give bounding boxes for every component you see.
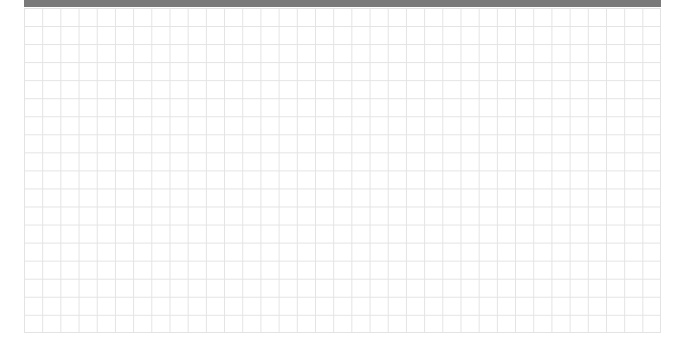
empty-grid-canvas <box>24 8 661 333</box>
header-bar <box>24 0 661 7</box>
page <box>0 0 681 349</box>
